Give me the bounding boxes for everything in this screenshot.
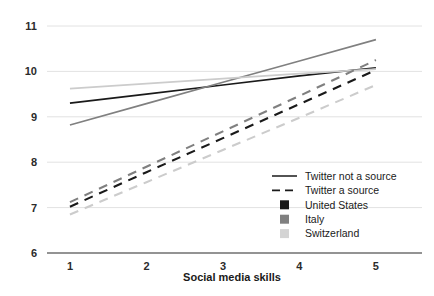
y-tick-label: 11	[25, 20, 37, 32]
legend-marker-square	[280, 200, 289, 209]
x-tick-label: 1	[67, 260, 73, 272]
legend-label: Twitter a source	[305, 184, 379, 196]
legend-label: Switzerland	[305, 227, 359, 239]
y-tick-label: 8	[31, 156, 37, 168]
legend-marker-square	[280, 229, 289, 238]
legend-marker-square	[280, 215, 289, 224]
legend-label: Twitter not a source	[305, 170, 397, 182]
x-tick-label: 5	[373, 260, 379, 272]
y-tick-label: 7	[31, 202, 37, 214]
legend-label: Italy	[305, 213, 325, 225]
y-tick-label: 6	[31, 247, 37, 259]
y-tick-label: 10	[25, 65, 37, 77]
x-axis-title: Social media skills	[183, 271, 281, 283]
x-tick-label: 4	[296, 260, 303, 272]
line-chart: 11109876 12345 Social media skills Twitt…	[0, 0, 434, 296]
x-tick-label: 2	[143, 260, 149, 272]
legend-label: United States	[305, 199, 368, 211]
y-tick-label: 9	[31, 111, 37, 123]
chart-background	[0, 0, 434, 296]
chart-canvas: 11109876 12345 Social media skills Twitt…	[0, 0, 434, 296]
